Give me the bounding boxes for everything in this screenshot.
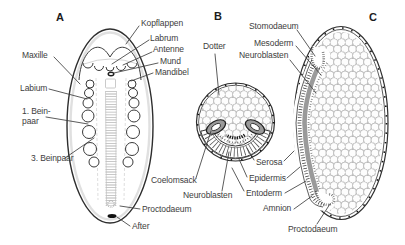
panel-letter-c: C bbox=[369, 11, 377, 23]
label-entoderm: Entoderm bbox=[246, 189, 282, 199]
label-labium: Labium bbox=[20, 84, 47, 94]
leader-epidermis-right bbox=[287, 167, 300, 178]
label-epidermis: Epidermis bbox=[249, 174, 286, 184]
label-beinpaar1-line2: paar bbox=[22, 117, 51, 127]
leader-kopflappen bbox=[126, 26, 139, 44]
label-antenne: Antenne bbox=[153, 45, 184, 55]
label-maxille: Maxille bbox=[22, 51, 48, 61]
egg-outline-a bbox=[67, 29, 153, 223]
anus-spot bbox=[108, 214, 117, 218]
embryo-development-diagram: A B C Kopflappen Labrum Antenne Mund Man… bbox=[0, 0, 405, 245]
leader-stomodaeum bbox=[297, 30, 315, 56]
panel-c-drawing bbox=[294, 27, 388, 220]
label-stomodaeum: Stomodaeum bbox=[249, 22, 299, 32]
label-mesoderm: Mesoderm bbox=[254, 39, 293, 49]
label-after: After bbox=[132, 222, 149, 232]
label-labrum: Labrum bbox=[150, 34, 178, 44]
panel-a-drawing bbox=[67, 29, 153, 223]
label-mandibel: Mandibel bbox=[155, 68, 189, 78]
label-dotter: Dotter bbox=[203, 42, 226, 52]
label-proctodaeum-a: Proctodaeum bbox=[142, 205, 191, 215]
panel-letter-b: B bbox=[214, 10, 222, 22]
label-neuroblasten-c: Neuroblasten bbox=[239, 51, 288, 61]
label-amnion: Amnion bbox=[263, 204, 291, 214]
label-serosa: Serosa bbox=[256, 158, 282, 168]
label-beinpaar1: 1. Bein- paar bbox=[22, 107, 51, 126]
leader-epidermis-left bbox=[239, 159, 247, 177]
label-mund: Mund bbox=[160, 57, 181, 67]
label-beinpaar3: 3. Beinpaar bbox=[31, 154, 73, 164]
label-coelomsack: Coelomsack bbox=[151, 176, 197, 186]
leader-serosa-right bbox=[284, 151, 294, 161]
diagram-artwork bbox=[0, 0, 405, 245]
leader-entoderm-left bbox=[232, 168, 244, 191]
label-kopflappen: Kopflappen bbox=[141, 19, 183, 29]
panel-b-drawing bbox=[197, 83, 275, 161]
mouth-opening bbox=[108, 72, 114, 76]
label-proctodaeum-c: Proctodaeum bbox=[288, 225, 337, 235]
panel-letter-a: A bbox=[56, 11, 64, 23]
label-neuroblasten-b: Neuroblasten bbox=[183, 191, 232, 201]
